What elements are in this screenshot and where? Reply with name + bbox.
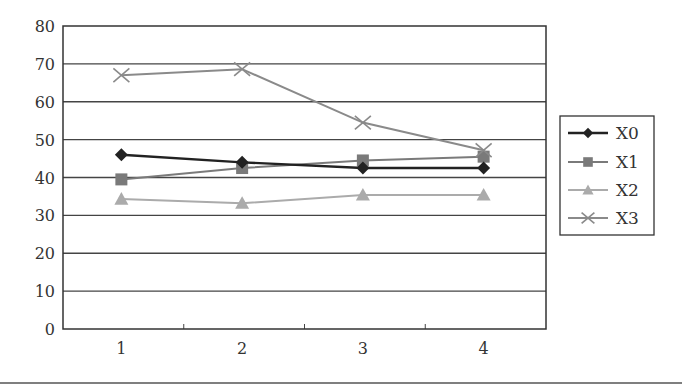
y-tick-label: 30 — [35, 206, 55, 225]
legend-label: X1 — [616, 152, 639, 172]
series-x0 — [115, 148, 490, 174]
series-line — [121, 155, 483, 168]
diamond-marker-icon — [477, 162, 490, 175]
y-tick-label: 60 — [35, 93, 55, 112]
x-tick-label: 1 — [116, 339, 126, 358]
line-chart: 01020304050607080 1234 X0X1X2X3 — [0, 0, 682, 386]
x-tick-label: 3 — [358, 339, 368, 358]
series-x2 — [114, 188, 490, 209]
data-series — [113, 62, 491, 208]
y-tick-label: 0 — [45, 320, 55, 339]
y-tick-label: 40 — [35, 169, 55, 188]
y-tick-label: 50 — [35, 131, 55, 150]
x-tick-label: 2 — [237, 339, 247, 358]
x-marker-icon — [355, 116, 371, 130]
legend-label: X2 — [616, 180, 639, 200]
square-marker-icon — [478, 151, 490, 163]
legend-label: X0 — [616, 123, 639, 143]
legend-label: X3 — [616, 208, 639, 228]
y-tick-label: 70 — [35, 55, 55, 74]
series-line — [121, 69, 483, 150]
y-axis-tick-labels: 01020304050607080 — [35, 17, 55, 339]
diamond-marker-icon — [115, 148, 128, 161]
y-tick-label: 80 — [35, 17, 55, 36]
square-marker-icon — [115, 173, 127, 185]
square-marker-icon — [583, 157, 593, 167]
y-tick-label: 20 — [35, 244, 55, 263]
legend: X0X1X2X3 — [560, 116, 654, 235]
series-x3 — [113, 62, 491, 157]
series-line — [121, 195, 483, 203]
x-tick-label: 4 — [479, 339, 489, 358]
y-tick-label: 10 — [35, 282, 55, 301]
